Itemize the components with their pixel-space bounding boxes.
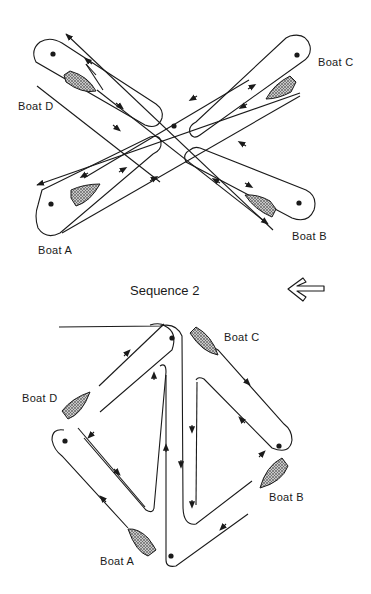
boat-d-icon (64, 71, 96, 92)
buoy-icon (169, 335, 174, 340)
boat-a-icon (128, 529, 156, 556)
buoy-icon (168, 553, 173, 558)
boat-drill-figure: Boat C Boat D Boat B Boat A Sequence 2 B… (0, 0, 371, 594)
buoy-icon (296, 200, 301, 205)
buoy-icon (50, 51, 55, 56)
lane-outline-b (185, 147, 315, 219)
sequence-1-boats (64, 71, 296, 217)
boat-d-icon (62, 392, 90, 419)
boat-a-label: Boat A (100, 555, 134, 567)
sequence-2-buoys (62, 335, 281, 558)
sequence-2-diagram (52, 324, 292, 567)
buoy-icon (62, 438, 67, 443)
sequence-1-buoys (48, 51, 301, 206)
sequence-2-title: Sequence 2 (130, 283, 199, 298)
boat-b-label: Boat B (269, 491, 304, 503)
boat-c-label: Boat C (318, 56, 353, 68)
boat-b-label: Boat B (292, 230, 327, 242)
buoy-icon (276, 443, 281, 448)
left-arrow-icon (288, 278, 324, 301)
boat-d-label: Boat D (18, 100, 53, 112)
boat-a-label: Boat A (38, 244, 72, 256)
buoy-icon (294, 52, 299, 57)
buoy-icon (171, 123, 176, 128)
boat-d-label: Boat D (22, 392, 57, 404)
boat-c-icon (190, 327, 218, 355)
buoy-icon (48, 201, 53, 206)
sequence-2-boats (62, 327, 288, 556)
boat-b-icon (245, 195, 276, 217)
boat-b-icon (260, 458, 288, 488)
boat-c-label: Boat C (224, 331, 259, 343)
